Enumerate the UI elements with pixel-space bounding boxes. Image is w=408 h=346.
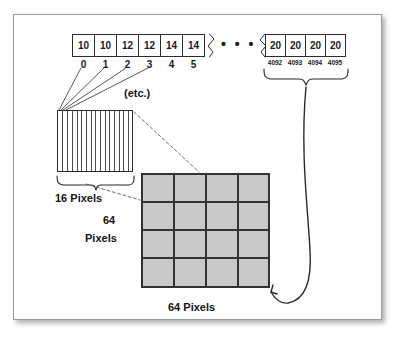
torn-edge-icon [260, 34, 266, 57]
annotation-layer [0, 0, 408, 346]
leader-line-icon [59, 68, 148, 110]
curved-arrow-icon [271, 87, 310, 303]
curly-brace-icon [57, 176, 134, 190]
torn-edge-icon [208, 34, 214, 57]
curly-brace-icon [264, 69, 348, 85]
figure-canvas: 10 10 12 12 14 14 0 1 2 3 4 5 • • • 20 2… [0, 0, 408, 346]
dashed-connector-icon [86, 112, 199, 200]
